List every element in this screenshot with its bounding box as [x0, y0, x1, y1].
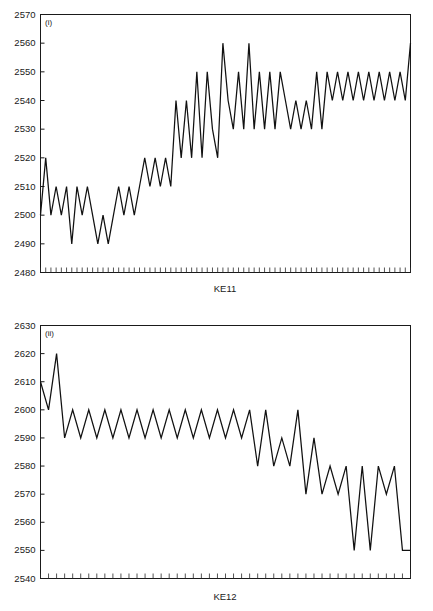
figure-root: 2480249025002510252025302540255025602570…: [0, 0, 433, 611]
y-axis-tick-label: 2500: [14, 209, 35, 220]
y-axis-tick-label: 2530: [14, 123, 35, 134]
chart-panel-ii: 2540255025602570258025902600261026202630…: [0, 305, 433, 611]
y-axis-tick-label: 2570: [14, 9, 35, 20]
y-axis-tick-label: 2520: [14, 152, 35, 163]
panel-label-ii: (ii): [45, 329, 54, 338]
y-axis-tick-label: 2510: [14, 181, 35, 192]
y-axis-tick-label: 2610: [14, 376, 35, 387]
chart-svg-ii: 2540255025602570258025902600261026202630…: [0, 305, 433, 611]
y-axis-tick-label: 2580: [14, 460, 35, 471]
y-axis-tick-label: 2550: [14, 544, 35, 555]
y-axis-tick-label: 2540: [14, 573, 35, 584]
y-axis-tick-label: 2630: [14, 320, 35, 331]
y-axis-tick-label: 2550: [14, 66, 35, 77]
x-axis-title-ii: KE12: [213, 591, 236, 602]
y-axis-tick-label: 2560: [14, 516, 35, 527]
y-axis-tick-label: 2620: [14, 348, 35, 359]
y-axis-tick-label: 2490: [14, 238, 35, 249]
y-axis-ticks-ii: [41, 326, 45, 579]
series-line-ii: [41, 354, 411, 551]
x-axis-minor-ticks-i: [41, 268, 411, 273]
chart-svg-i: 2480249025002510252025302540255025602570…: [0, 0, 433, 302]
chart-panel-i: 2480249025002510252025302540255025602570…: [0, 0, 433, 302]
y-axis-tick-label: 2600: [14, 404, 35, 415]
y-axis-tick-labels-ii: 2540255025602570258025902600261026202630: [14, 320, 35, 584]
x-axis-title-i: KE11: [214, 283, 237, 294]
x-axis-minor-ticks-ii: [41, 574, 411, 579]
y-axis-tick-label: 2570: [14, 488, 35, 499]
y-axis-tick-label: 2480: [14, 267, 35, 278]
y-axis-tick-label: 2540: [14, 95, 35, 106]
series-line-i: [41, 43, 411, 244]
y-axis-tick-labels-i: 2480249025002510252025302540255025602570: [14, 9, 35, 278]
y-axis-ticks-i: [41, 15, 45, 273]
y-axis-tick-label: 2560: [14, 37, 35, 48]
y-axis-tick-label: 2590: [14, 432, 35, 443]
panel-label-i: (i): [45, 18, 52, 27]
